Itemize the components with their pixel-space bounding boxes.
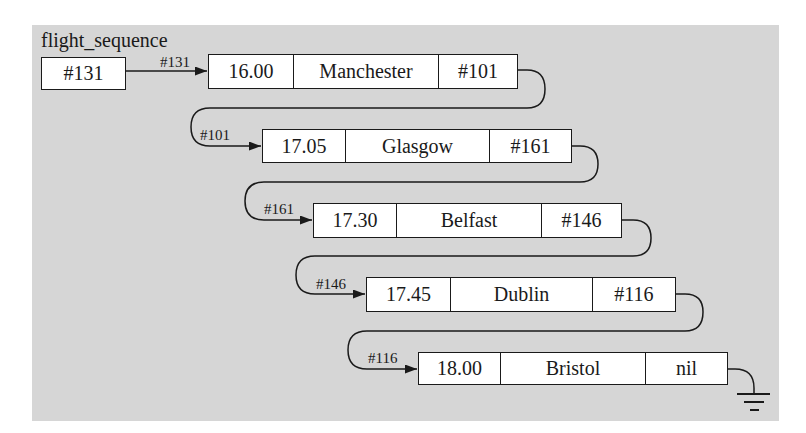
node-next-pointer: nil	[645, 353, 727, 384]
node-next-pointer: #146	[541, 204, 621, 237]
list-node: 18.00 Bristol nil	[418, 352, 728, 385]
node-time: 17.05	[263, 130, 345, 162]
node-city: Belfast	[396, 204, 541, 237]
node-time: 17.30	[314, 204, 396, 237]
arrow-label-node2: #101	[200, 128, 230, 143]
node-time: 16.00	[209, 55, 293, 88]
ground-icon	[737, 390, 771, 412]
node-city: Dublin	[450, 278, 592, 311]
arrow-label-node3: #161	[264, 202, 294, 217]
arrow-label-head: #131	[160, 55, 190, 70]
node-time: 17.45	[367, 278, 450, 311]
arrow-label-node4: #146	[316, 277, 346, 292]
node-next-pointer: #101	[438, 55, 517, 88]
node-time: 18.00	[419, 353, 500, 384]
list-node: 16.00 Manchester #101	[208, 54, 518, 89]
node-next-pointer: #161	[489, 130, 571, 162]
arrow-label-node5: #116	[368, 351, 397, 366]
list-node: 17.30 Belfast #146	[313, 203, 622, 238]
list-node: 17.45 Dublin #116	[366, 277, 676, 312]
list-node: 17.05 Glasgow #161	[262, 129, 572, 163]
node-city: Glasgow	[345, 130, 489, 162]
node-next-pointer: #116	[592, 278, 675, 311]
node-city: Bristol	[500, 353, 645, 384]
node-city: Manchester	[293, 55, 438, 88]
